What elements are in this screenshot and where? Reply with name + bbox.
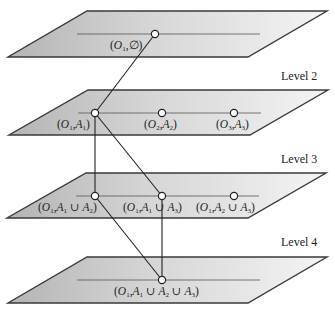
plane-level-1 <box>8 11 327 57</box>
edges <box>95 34 162 280</box>
node-label-n1: (O1,∅) (O1,∅) <box>110 39 143 53</box>
node-n1 <box>151 30 158 37</box>
level-label-4: Level 4 <box>281 235 317 249</box>
node-label-n3a: (O1,A1 ∪ A2) (O1,A1 ∪ A2) <box>38 201 97 215</box>
node-label-n2a: (O1,A1) (O1,A1) <box>57 118 90 132</box>
level-label-3: Level 3 <box>281 152 317 166</box>
lattice-diagram: (O1,∅) (O1,∅) (O1,A1) (O1,A1) (O2,A2) (O… <box>0 0 335 311</box>
node-label-n2b: (O2,A2) (O2,A2) <box>144 118 177 132</box>
node-n3a <box>91 192 98 199</box>
node-n2c <box>230 109 237 116</box>
node-label-n2c: (O3,A3) (O3,A3) <box>216 118 249 132</box>
node-n3b <box>158 192 165 199</box>
level-label-2: Level 2 <box>281 69 317 83</box>
node-n4a <box>158 276 165 283</box>
node-n2b <box>158 109 165 116</box>
nodes <box>91 30 237 283</box>
node-n3c <box>230 192 237 199</box>
node-n2a <box>91 109 98 116</box>
node-label-n3c: (O1,A2 ∪ A3) (O1,A2 ∪ A3) <box>196 201 255 215</box>
node-label-n3b: (O1,A1 ∪ A3) (O1,A1 ∪ A3) <box>123 201 182 215</box>
